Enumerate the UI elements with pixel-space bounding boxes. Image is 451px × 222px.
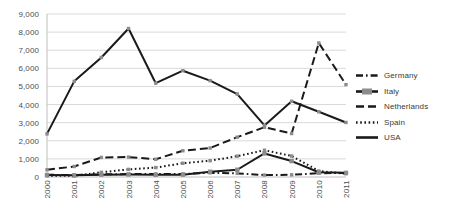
- data-point: [72, 80, 75, 83]
- x-axis-tick-label: 2004: [151, 180, 160, 199]
- data-point: [72, 174, 75, 177]
- series-line-netherlands: [47, 43, 346, 170]
- data-point: [154, 166, 157, 169]
- data-point: [290, 173, 293, 176]
- data-point: [289, 159, 293, 163]
- y-axis-tick-label: 1,000: [18, 154, 39, 163]
- y-axis-tick-label: 7,000: [18, 46, 39, 55]
- x-axis-tick-label: 2007: [233, 180, 242, 199]
- data-point: [154, 173, 158, 177]
- legend-label: Germany: [384, 71, 418, 80]
- data-point: [263, 124, 266, 127]
- y-axis-tick-label: 9,000: [18, 10, 39, 19]
- y-axis-tick-label: 4,000: [18, 100, 39, 109]
- data-point: [208, 170, 212, 174]
- data-point: [344, 121, 347, 124]
- legend-label: Spain: [384, 118, 405, 127]
- legend-entry-usa[interactable]: USA: [356, 130, 451, 146]
- y-axis-tick-label: 5,000: [18, 82, 39, 91]
- y-axis-tick-label: 6,000: [18, 64, 39, 73]
- series-line-spain: [47, 150, 346, 176]
- data-point: [317, 169, 320, 172]
- x-axis-tick-label: 2006: [206, 180, 215, 199]
- data-point: [235, 168, 239, 172]
- data-point: [263, 148, 266, 151]
- legend-entry-spain[interactable]: Spain: [356, 115, 451, 131]
- data-point: [236, 92, 239, 95]
- data-point: [181, 162, 184, 165]
- data-point: [100, 56, 103, 59]
- legend-label: USA: [384, 133, 401, 142]
- data-point: [208, 146, 211, 149]
- plot-area: [47, 14, 346, 177]
- data-point: [236, 135, 239, 138]
- y-axis-tick-label: 2,000: [18, 136, 39, 145]
- x-axis-tick-label: 2008: [260, 180, 269, 199]
- data-point: [317, 41, 320, 44]
- chart-legend: GermanyItalyNetherlandsSpainUSA: [356, 68, 451, 146]
- data-point: [263, 173, 266, 176]
- legend-entry-netherlands[interactable]: Netherlands: [356, 99, 451, 115]
- data-point: [100, 171, 103, 174]
- x-axis: 2000200120022003200420052006200720082009…: [47, 180, 346, 218]
- data-point: [181, 69, 184, 72]
- data-point: [127, 168, 130, 171]
- data-point: [344, 83, 347, 86]
- data-point: [45, 174, 48, 177]
- data-point: [290, 100, 293, 103]
- y-axis-tick-label: 3,000: [18, 118, 39, 127]
- data-point: [100, 156, 103, 159]
- data-point: [154, 158, 157, 161]
- x-axis-tick-label: 2005: [178, 180, 187, 199]
- legend-swatch-icon: [356, 87, 378, 96]
- legend-swatch-icon: [356, 71, 378, 80]
- x-axis-tick-label: 2003: [124, 180, 133, 199]
- data-point: [72, 165, 75, 168]
- data-point: [181, 149, 184, 152]
- data-point: [181, 172, 185, 176]
- legend-entry-germany[interactable]: Germany: [356, 68, 451, 84]
- legend-swatch-icon: [356, 102, 378, 111]
- legend-swatch-icon: [356, 133, 378, 142]
- x-axis-tick-label: 2000: [43, 180, 52, 199]
- data-point: [45, 168, 48, 171]
- y-axis-tick-label: 0: [34, 173, 39, 182]
- x-axis-tick-label: 2010: [314, 180, 323, 199]
- data-point: [236, 154, 239, 157]
- x-axis-tick-label: 2001: [70, 180, 79, 199]
- legend-entry-italy[interactable]: Italy: [356, 84, 451, 100]
- legend-swatch-icon: [356, 118, 378, 127]
- data-point: [208, 159, 211, 162]
- data-point: [344, 172, 347, 175]
- data-point: [208, 79, 211, 82]
- line-chart: 01,0002,0003,0004,0005,0006,0007,0008,00…: [0, 0, 451, 222]
- data-point: [290, 132, 293, 135]
- legend-label: Netherlands: [384, 102, 428, 111]
- y-axis-tick-label: 8,000: [18, 28, 39, 37]
- data-point: [290, 154, 293, 157]
- series-line-italy: [47, 153, 346, 175]
- data-point: [126, 172, 130, 176]
- y-axis: 01,0002,0003,0004,0005,0006,0007,0008,00…: [0, 14, 43, 177]
- legend-label: Italy: [384, 87, 399, 96]
- x-axis-tick-label: 2009: [287, 180, 296, 199]
- data-point: [262, 151, 266, 155]
- data-point: [236, 172, 239, 175]
- data-point: [317, 110, 320, 113]
- x-axis-tick-label: 2002: [97, 180, 106, 199]
- series-line-usa: [47, 28, 346, 133]
- data-point: [154, 81, 157, 84]
- data-point: [45, 132, 48, 135]
- data-point: [127, 155, 130, 158]
- data-point: [127, 27, 130, 30]
- x-axis-tick-label: 2011: [342, 180, 351, 198]
- data-series-layer: [47, 14, 346, 177]
